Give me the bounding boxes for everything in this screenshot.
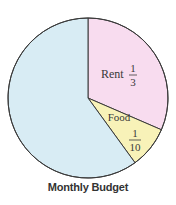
food-label-text: Food bbox=[108, 111, 131, 123]
food-fraction-numerator: 1 bbox=[132, 127, 138, 139]
rent-fraction-numerator: 1 bbox=[130, 62, 136, 74]
rent-label-text: Rent bbox=[101, 67, 124, 81]
food-fraction-denominator: 10 bbox=[130, 141, 142, 153]
rent-fraction-denominator: 3 bbox=[130, 76, 136, 88]
pie-slices bbox=[8, 18, 168, 178]
pie-chart: Rent 1 3 Food 1 10 bbox=[0, 0, 176, 180]
chart-title: Monthly Budget bbox=[0, 181, 176, 193]
